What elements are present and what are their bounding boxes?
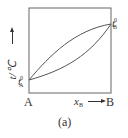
y-axis-arrow-icon [12,30,13,44]
lower-curve [29,24,111,80]
phase-diagram: t/℃ t0A t0B A B xB (a) [0,0,128,138]
x-axis-arrow-icon [88,101,102,102]
plot-frame [29,8,111,93]
point-a-sub: A [19,82,23,88]
point-b-label: t0B [112,17,117,30]
component-b-label: B [106,96,114,108]
point-a-sup: 0 [20,75,23,81]
x-axis-sub: B [79,102,83,108]
y-axis-label-text: t/℃ [6,51,19,91]
x-axis-label: xB [74,96,83,108]
y-axis-label: t/℃ [6,30,20,80]
point-a-label: t0A [18,75,23,88]
upper-curve [29,24,111,80]
point-b-sup: 0 [114,17,117,23]
component-a-label: A [24,96,33,108]
figure-caption: (a) [58,116,71,128]
point-b-sub: B [113,24,117,30]
